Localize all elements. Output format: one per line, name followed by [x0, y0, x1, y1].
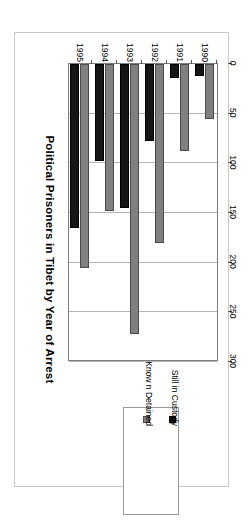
- bar-1992-still-in-custody: [146, 64, 155, 141]
- category-tick-mark: [191, 60, 192, 64]
- axis-tick-label: 0: [228, 61, 238, 66]
- category-label: 1993: [126, 34, 136, 62]
- gridline: [69, 262, 217, 263]
- gridline: [69, 113, 217, 114]
- bar-1995-known-detained: [80, 64, 89, 268]
- chart-title-container: Political Prisoners in Tibet by Year of …: [36, 33, 56, 486]
- axis-tick-label: 150: [228, 205, 238, 219]
- gridline: [69, 212, 217, 213]
- gridline: [69, 162, 217, 163]
- category-label: 1990: [201, 34, 211, 62]
- bar-1991-still-in-custody: [171, 64, 180, 78]
- bar-1994-still-in-custody: [96, 64, 105, 161]
- chart-legend: Know n DetainedStill in Custody: [123, 407, 179, 515]
- bar-1990-still-in-custody: [196, 64, 205, 76]
- category-label: 1995: [76, 34, 86, 62]
- legend-label: Know n Detained: [144, 361, 154, 426]
- legend-item: Know n Detained: [128, 414, 152, 508]
- category-label: 1994: [101, 34, 111, 62]
- category-label: 1991: [176, 34, 186, 62]
- chart-sheet: Political Prisoners in Tibet by Year of …: [14, 32, 229, 487]
- category-label: 1992: [151, 34, 161, 62]
- plot-area: 199019911992199319941995: [68, 63, 218, 361]
- page-title: Political Prisoners in Tibet by Year of …: [44, 33, 56, 486]
- category-tick-mark: [141, 60, 142, 64]
- bar-1993-known-detained: [130, 64, 139, 334]
- bar-1990-known-detained: [205, 64, 214, 119]
- category-tick-mark: [91, 60, 92, 64]
- axis-tick-label: 250: [228, 304, 238, 318]
- value-axis-labels: 050100150200250300: [218, 63, 228, 361]
- gridline: [69, 311, 217, 312]
- bar-1993-still-in-custody: [121, 64, 130, 208]
- axis-tick-label: 100: [228, 155, 238, 169]
- bar-1992-known-detained: [155, 64, 164, 243]
- bar-1994-known-detained: [105, 64, 114, 211]
- category-tick-mark: [116, 60, 117, 64]
- legend-item: Still in Custody: [154, 414, 178, 508]
- axis-tick-label: 200: [228, 255, 238, 269]
- axis-tick-label: 300: [228, 354, 238, 368]
- axis-tick-label: 50: [228, 108, 238, 117]
- bar-1995-still-in-custody: [71, 64, 80, 228]
- bar-1991-known-detained: [180, 64, 189, 151]
- category-tick-mark: [216, 60, 217, 64]
- legend-label: Still in Custody: [170, 370, 180, 426]
- rotated-chart-canvas: Political Prisoners in Tibet by Year of …: [15, 33, 228, 486]
- chart-page: Political Prisoners in Tibet by Year of …: [0, 0, 249, 532]
- category-tick-mark: [166, 60, 167, 64]
